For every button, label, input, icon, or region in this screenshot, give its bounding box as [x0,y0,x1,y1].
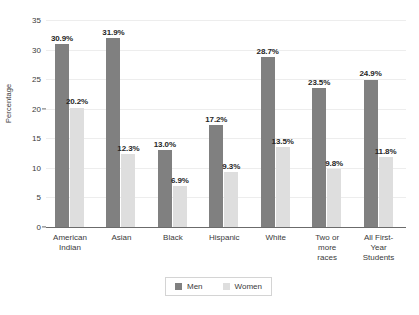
y-axis-tick-label: 5 [37,193,41,202]
bar-value-label: 13.0% [154,140,176,149]
bar-value-label: 23.5% [308,78,330,87]
bar-value-label: 28.7% [257,47,279,56]
y-axis-tick-mark [42,226,46,227]
bar-women: 9.8% [327,169,341,227]
y-axis-tick-mark [42,108,46,109]
bar-value-label: 12.3% [117,144,139,153]
legend-swatch-icon [175,283,182,290]
y-axis-tick-label: 25 [32,75,41,84]
bar-women: 9.3% [224,172,238,227]
y-axis-tick-label: 30 [32,45,41,54]
bar-value-label: 9.3% [222,162,240,171]
bar-group: 24.9%11.8%All First-YearStudents [355,20,406,227]
bar-value-label: 9.8% [325,159,343,168]
bar-men: 17.2% [209,125,223,227]
y-axis-title: Percentage [2,62,11,78]
y-axis-tick-label: 15 [32,134,41,143]
bar-value-label: 17.2% [205,115,227,124]
bar-men: 13.0% [158,150,172,227]
bar-group: 31.9%12.3%Asian [97,20,148,227]
legend-item-women[interactable]: Women [223,282,262,291]
legend-item-label: Men [187,282,203,291]
bar-men: 30.9% [55,44,69,227]
bar-women: 20.2% [70,108,84,227]
plot-area: 0510152025303530.9%20.2%AmericanIndian31… [46,20,406,227]
bar-group: 30.9%20.2%AmericanIndian [46,20,97,227]
chart-legend: MenWomen [165,277,272,296]
y-axis-tick-label: 0 [37,223,41,232]
legend-swatch-icon [223,283,230,290]
y-axis-tick-label: 35 [32,16,41,25]
y-axis-title-label: Percentage [4,107,13,123]
bar-men: 31.9% [106,38,120,227]
bar-value-label: 11.8% [375,147,397,156]
bar-women: 13.5% [276,147,290,227]
bar-value-label: 20.2% [66,97,88,106]
bar-group: 17.2%9.3%Hispanic [200,20,251,227]
bar-group: 23.5%9.8%Two ormoreraces [303,20,354,227]
bar-women: 11.8% [379,157,393,227]
legend-item-label: Women [235,282,262,291]
y-axis-tick-label: 10 [32,163,41,172]
bar-women: 12.3% [121,154,135,227]
y-axis-tick-label: 20 [32,104,41,113]
bar-group: 28.7%13.5%White [252,20,303,227]
bar-women: 6.9% [173,186,187,227]
bar-value-label: 13.5% [272,137,294,146]
legend-item-men[interactable]: Men [175,282,203,291]
x-axis-baseline [46,227,406,228]
bar-group: 13.0%6.9%Black [149,20,200,227]
bar-chart: Percentage 0510152025303530.9%20.2%Ameri… [0,0,419,315]
bar-value-label: 31.9% [102,28,124,37]
bar-value-label: 24.9% [359,69,381,78]
bar-men: 23.5% [312,88,326,227]
bar-value-label: 30.9% [51,34,73,43]
bar-value-label: 6.9% [171,176,189,185]
x-axis-category-label: All First-YearStudents [349,233,409,263]
